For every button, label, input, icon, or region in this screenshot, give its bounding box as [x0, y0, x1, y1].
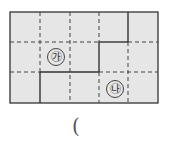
answer-parenthesis: ( [72, 114, 80, 138]
grid-outer-border [10, 12, 158, 103]
label-na-text: ㉯ [110, 83, 121, 96]
label-na: ㉯ [106, 80, 124, 98]
label-ga: ㉮ [47, 48, 65, 66]
grid-diagram [0, 0, 174, 144]
label-ga-text: ㉮ [51, 51, 62, 64]
